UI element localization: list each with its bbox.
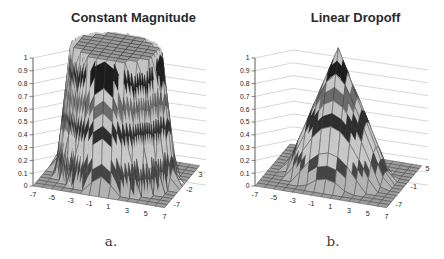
z-tick-label: 1: [246, 54, 250, 61]
x-tick-label: -5: [271, 193, 277, 202]
z-tick-label: 0.4: [240, 131, 250, 138]
x-tick-label: 1: [106, 202, 110, 211]
x-tick-label: 5: [366, 209, 370, 218]
panel-linear-dropoff: Linear Dropoff 00.10.20.30.40.50.60.70.8…: [222, 0, 444, 259]
z-tick-label: 0.5: [18, 118, 28, 125]
x-tick-label: -7: [30, 190, 36, 199]
x-tick-label: -5: [49, 193, 55, 202]
x-tick-label: -3: [289, 196, 295, 205]
z-tick-label: 1: [24, 54, 28, 61]
z-tick-label: 0: [246, 182, 250, 189]
x-tick-label: 3: [125, 206, 129, 215]
x-tick-label: 7: [385, 212, 389, 221]
y-tick-label: -1: [411, 182, 417, 191]
surface-chart-b: 00.10.20.30.40.50.60.70.80.91-7-5-3-1135…: [222, 0, 444, 259]
z-tick-label: 0.2: [240, 157, 250, 164]
x-tick-label: -3: [67, 196, 73, 205]
z-tick-label: 0.1: [240, 170, 250, 177]
z-tick-label: 0.5: [240, 118, 250, 125]
z-tick-label: 0.6: [18, 106, 28, 113]
z-tick-label: 0.1: [18, 170, 28, 177]
x-tick-label: -1: [308, 199, 314, 208]
y-tick-label: 5: [426, 164, 430, 173]
y-tick-label: -7: [396, 200, 402, 209]
z-tick-label: 0.7: [18, 93, 28, 100]
z-tick-label: 0.7: [240, 93, 250, 100]
x-tick-label: -1: [86, 199, 92, 208]
x-tick-label: 7: [163, 212, 167, 221]
z-tick-label: 0.8: [240, 80, 250, 87]
surface-chart-a: 00.10.20.30.40.50.60.70.80.91-7-5-3-1135…: [0, 0, 222, 259]
figure-caption-a: a.: [0, 233, 222, 249]
x-tick-label: 1: [328, 202, 332, 211]
figure-caption-b: b.: [222, 233, 444, 249]
z-tick-label: 0.4: [18, 131, 28, 138]
z-tick-label: 0.9: [18, 67, 28, 74]
y-tick-label: -7: [174, 200, 180, 209]
figure-two-surface-charts: Constant Magnitude 00.10.20.30.40.50.60.…: [0, 0, 444, 259]
z-tick-label: 0.8: [18, 80, 28, 87]
z-tick-label: 0.3: [240, 144, 250, 151]
surface-band-fragment: [319, 140, 330, 154]
z-tick-label: 0.9: [240, 67, 250, 74]
panel-constant-magnitude: Constant Magnitude 00.10.20.30.40.50.60.…: [0, 0, 222, 259]
z-tick-label: 0: [24, 182, 28, 189]
surface-band-fragment: [316, 166, 327, 180]
x-tick-label: 3: [347, 206, 351, 215]
z-tick-label: 0.6: [240, 106, 250, 113]
surface-band-fragment: [318, 153, 329, 167]
x-tick-label: -7: [252, 190, 258, 199]
y-tick-label: 3: [199, 170, 203, 179]
z-tick-label: 0.2: [18, 157, 28, 164]
z-tick-label: 0.3: [18, 144, 28, 151]
x-tick-label: 5: [144, 209, 148, 218]
y-tick-label: -2: [186, 185, 192, 194]
